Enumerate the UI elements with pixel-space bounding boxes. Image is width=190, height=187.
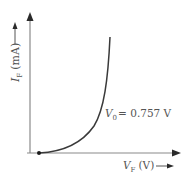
iv-curve: [39, 37, 110, 153]
y-axis-label: IF(mA): [9, 43, 24, 83]
v0-annotation: V0= 0.757 V: [105, 107, 172, 122]
svg-text:IF(mA): IF(mA): [9, 43, 24, 83]
diode-iv-figure: IF(mA) V0= 0.757 V VF(V): [0, 0, 190, 187]
x-label-arrow-icon: [167, 164, 174, 169]
y-label-arrow-icon: [13, 22, 18, 29]
curve-start-dot: [37, 151, 41, 155]
y-axis-arrow-icon: [27, 12, 34, 21]
x-axis-arrow-icon: [172, 150, 181, 157]
x-axis-label: VF(V): [123, 159, 154, 174]
